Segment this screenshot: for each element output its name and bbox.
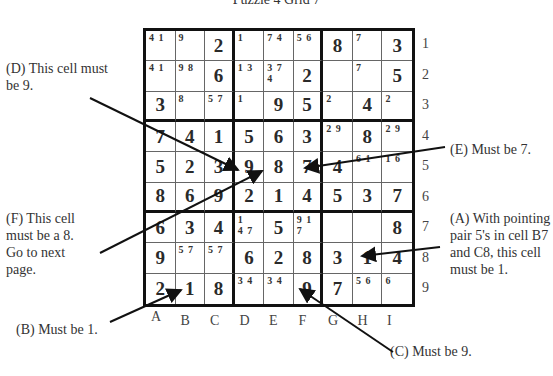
cell-value: 1 (176, 278, 205, 300)
cell-value: 1 (264, 185, 293, 207)
cell-value: 4 (382, 247, 412, 269)
cell-G6: 5 (323, 183, 353, 213)
cell-value: 9 (235, 156, 264, 178)
cell-value: 3 (294, 126, 321, 148)
cell-value: 2 (205, 35, 232, 57)
cell-C2: 6 (205, 61, 235, 91)
candidates: 6 (385, 275, 391, 286)
cell-H8: 1 (353, 243, 383, 273)
cell-value: 6 (264, 126, 293, 148)
candidates: 1 (238, 93, 244, 104)
cell-value: 8 (353, 126, 382, 148)
cell-D6: 2 (235, 183, 265, 213)
row-label: 3 (422, 97, 429, 113)
note-d: (D) This cell must be 9. (6, 60, 116, 94)
cell-C7: 4 (205, 213, 235, 243)
cell-value: 8 (146, 185, 175, 207)
cell-F6: 4 (294, 183, 324, 213)
cell-value: 5 (264, 217, 293, 239)
cell-value: 9 (146, 247, 175, 269)
note-c: (C) Must be 9. (390, 343, 530, 360)
cell-value: 6 (176, 185, 205, 207)
cell-G5: 4 (323, 152, 353, 182)
cell-A6: 8 (146, 183, 176, 213)
column-label: E (269, 313, 278, 329)
cell-I5: 1 6 (382, 152, 412, 182)
cell-I1: 3 (382, 31, 412, 61)
cell-I4: 2 9 (382, 122, 412, 152)
column-label: I (387, 313, 392, 329)
cell-D2: 1 3 (235, 61, 265, 91)
candidates: 9 1 7 (297, 214, 313, 236)
cell-value: 3 (323, 247, 352, 269)
column-label: A (151, 309, 161, 325)
cell-value: 1 (205, 126, 232, 148)
cell-value: 7 (382, 185, 412, 207)
puzzle-title: Puzzle 4 Grid 7 (0, 0, 553, 8)
cell-D3: 1 (235, 92, 265, 122)
row-label: 7 (422, 219, 429, 235)
cell-value: 4 (176, 126, 205, 148)
cell-A4: 7 (146, 122, 176, 152)
cell-value: 3 (176, 217, 205, 239)
cell-D1: 1 (235, 31, 265, 61)
cell-I7: 8 (382, 213, 412, 243)
cell-H4: 8 (353, 122, 383, 152)
cell-C8: 5 7 (205, 243, 235, 273)
candidates: 8 (179, 93, 185, 104)
cell-value: 8 (294, 247, 321, 269)
cell-C3: 5 7 (205, 92, 235, 122)
cell-B7: 3 (176, 213, 206, 243)
cell-value: 2 (264, 247, 293, 269)
cell-I6: 7 (382, 183, 412, 213)
cell-G3: 2 (323, 92, 353, 122)
column-label: H (358, 313, 368, 329)
row-label: 5 (422, 158, 429, 174)
cell-value: 5 (235, 126, 264, 148)
cell-value: 5 (294, 94, 321, 116)
candidates: 3 4 (238, 275, 254, 286)
cell-value: 7 (294, 156, 321, 178)
cell-E5: 8 (264, 152, 294, 182)
cell-F9: 9 (294, 274, 324, 304)
cell-value: 9 (205, 185, 232, 207)
cell-E8: 2 (264, 243, 294, 273)
row-label: 9 (422, 280, 429, 296)
cell-G2 (323, 61, 353, 91)
row-label: 2 (422, 67, 429, 83)
column-label: C (210, 313, 219, 329)
cell-C6: 9 (205, 183, 235, 213)
cell-H3: 4 (353, 92, 383, 122)
column-label: B (181, 313, 190, 329)
candidates: 2 (385, 93, 391, 104)
note-f: (F) This cell must be a 8. Go to next pa… (6, 210, 91, 278)
cell-F2: 2 (294, 61, 324, 91)
cell-value: 6 (146, 217, 175, 239)
cell-C1: 2 (205, 31, 235, 61)
cell-D9: 3 4 (235, 274, 265, 304)
note-a: (A) With pointing pair 5's in cell B7 an… (450, 210, 553, 278)
cell-value: 5 (146, 156, 175, 178)
cell-A9: 2 (146, 274, 176, 304)
cell-H6: 3 (353, 183, 383, 213)
cell-value: 8 (323, 35, 352, 57)
candidates: 7 (356, 62, 362, 73)
cell-I3: 2 (382, 92, 412, 122)
cell-value: 3 (146, 94, 175, 116)
cell-H2: 7 (353, 61, 383, 91)
cell-value: 2 (176, 156, 205, 178)
candidates: 9 8 (179, 62, 195, 73)
candidates: 2 9 (326, 123, 342, 134)
candidates: 1 3 (238, 62, 254, 73)
cell-H5: 6 1 (353, 152, 383, 182)
cell-value: 7 (323, 278, 352, 300)
cell-value: 4 (323, 156, 352, 178)
cell-H9: 5 6 (353, 274, 383, 304)
cell-E1: 7 4 (264, 31, 294, 61)
cell-value: 1 (353, 247, 382, 269)
row-label: 4 (422, 128, 429, 144)
cell-H7 (353, 213, 383, 243)
cell-B1: 9 (176, 31, 206, 61)
cell-A5: 5 (146, 152, 176, 182)
cell-E7: 5 (264, 213, 294, 243)
